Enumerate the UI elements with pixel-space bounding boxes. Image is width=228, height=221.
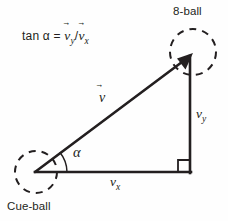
formula-numerator-subscript: y: [70, 36, 74, 46]
velocity-vector-line: [35, 59, 186, 172]
cue-ball-label: Cue-ball: [7, 201, 51, 213]
formula-denominator: ⃗vx: [78, 29, 89, 46]
vx-label: vx: [110, 175, 120, 192]
tangent-formula: tan α = ⃗vy/⃗vx: [22, 29, 89, 46]
formula-numerator: ⃗vy: [64, 29, 75, 46]
vy-subscript: y: [202, 114, 206, 124]
vx-subscript: x: [116, 182, 120, 192]
velocity-vector-letter: v: [99, 90, 105, 105]
eight-ball-label: 8-ball: [173, 6, 202, 18]
physics-diagram: 8-ball Cue-ball tan α = ⃗vy/⃗vx ⃗v α vx …: [0, 0, 228, 221]
angle-alpha-label: α: [73, 145, 81, 160]
vy-label: vy: [196, 107, 206, 124]
velocity-vector-symbol: ⃗v: [99, 91, 105, 105]
formula-prefix: tan α =: [22, 29, 64, 43]
eight-ball-circle: [170, 29, 216, 75]
right-angle-marker: [178, 160, 190, 172]
velocity-vector-label: ⃗v: [99, 91, 105, 105]
formula-denominator-subscript: x: [85, 36, 89, 46]
angle-arc: [60, 152, 67, 172]
